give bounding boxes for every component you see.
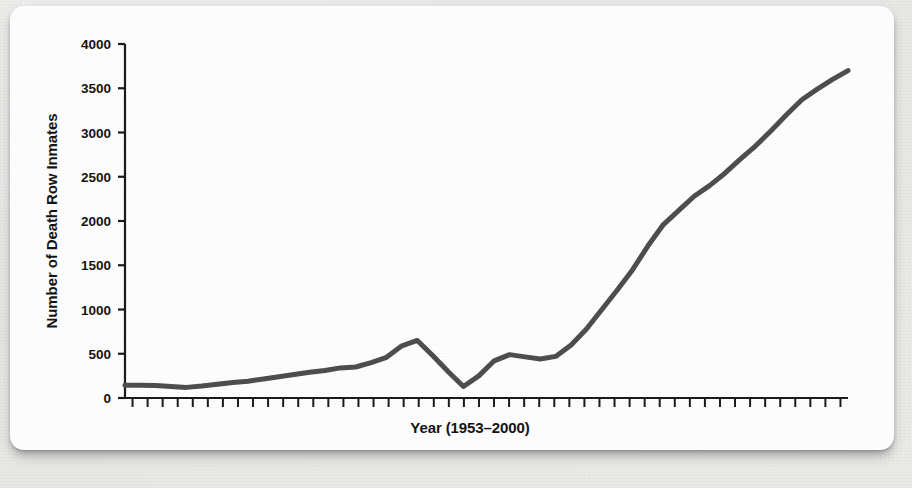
y-tick-label: 3000 <box>81 126 111 141</box>
y-tick-label: 2000 <box>81 214 111 229</box>
y-tick-label: 1500 <box>81 258 111 273</box>
y-axis-ticks: 05001000150020002500300035004000 <box>81 37 125 406</box>
data-series-line <box>125 71 848 388</box>
y-tick-label: 2500 <box>81 170 111 185</box>
x-axis-ticks <box>133 398 841 407</box>
x-axis-title: Year (1953–2000) <box>410 419 529 436</box>
y-tick-label: 1000 <box>81 303 111 318</box>
y-axis-title: Number of Death Row Inmates <box>43 114 60 329</box>
y-tick-label: 4000 <box>81 37 111 52</box>
y-tick-label: 500 <box>88 347 111 362</box>
y-tick-label: 3500 <box>81 81 111 96</box>
line-chart: 05001000150020002500300035004000 Number … <box>0 0 912 488</box>
y-tick-label: 0 <box>103 391 111 406</box>
